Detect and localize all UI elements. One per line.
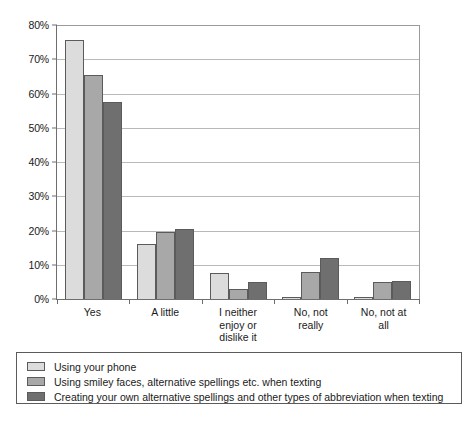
bar bbox=[392, 281, 411, 299]
bar bbox=[320, 258, 339, 299]
bar bbox=[84, 75, 103, 299]
x-axis-category-label: I neitherenjoy ordislike it bbox=[202, 306, 275, 350]
legend-swatch-icon bbox=[27, 377, 45, 386]
bar bbox=[65, 40, 84, 299]
bar-chart: 0%10%20%30%40%50%60%70%80% YesA littleI … bbox=[0, 0, 475, 424]
x-axis-labels: YesA littleI neitherenjoy ordislike itNo… bbox=[56, 306, 420, 350]
x-axis-category-label: No, not atall bbox=[347, 306, 420, 350]
x-axis-tick-mark bbox=[129, 299, 130, 304]
bar bbox=[156, 232, 175, 299]
chart-legend: Using your phoneUsing smiley faces, alte… bbox=[16, 352, 462, 404]
bar-group bbox=[57, 25, 129, 299]
x-axis-category-label: No, notreally bbox=[274, 306, 347, 350]
x-axis-tick-mark bbox=[419, 299, 420, 304]
legend-label: Using your phone bbox=[54, 361, 136, 373]
legend-item: Creating your own alternative spellings … bbox=[27, 390, 461, 403]
bar bbox=[137, 244, 156, 299]
legend-item: Using smiley faces, alternative spelling… bbox=[27, 375, 461, 388]
x-axis-category-label: Yes bbox=[56, 306, 129, 350]
bar bbox=[373, 282, 392, 299]
bar bbox=[282, 297, 301, 299]
bar-groups bbox=[57, 25, 419, 299]
bar bbox=[103, 102, 122, 299]
legend-label: Using smiley faces, alternative spelling… bbox=[54, 376, 321, 388]
legend-swatch-icon bbox=[27, 362, 45, 371]
x-axis-category-label: A little bbox=[129, 306, 202, 350]
bar-group bbox=[274, 25, 346, 299]
bar-group bbox=[129, 25, 201, 299]
legend-swatch-icon bbox=[27, 392, 45, 401]
bar bbox=[248, 282, 267, 299]
bar bbox=[301, 272, 320, 299]
bar bbox=[229, 289, 248, 299]
legend-label: Creating your own alternative spellings … bbox=[54, 391, 443, 403]
bar-group bbox=[347, 25, 419, 299]
x-axis-tick-mark bbox=[202, 299, 203, 304]
legend-rows: Using your phoneUsing smiley faces, alte… bbox=[27, 360, 461, 403]
x-axis-tick-mark bbox=[347, 299, 348, 304]
bar bbox=[354, 297, 373, 299]
bar bbox=[210, 273, 229, 299]
bar-group bbox=[202, 25, 274, 299]
bar bbox=[175, 229, 194, 299]
x-axis-tick-mark bbox=[57, 299, 58, 304]
plot-area: 0%10%20%30%40%50%60%70%80% bbox=[56, 25, 420, 300]
plot-area-wrapper: 0%10%20%30%40%50%60%70%80% bbox=[56, 25, 420, 300]
x-axis-tick-mark bbox=[274, 299, 275, 304]
legend-item: Using your phone bbox=[27, 360, 461, 373]
